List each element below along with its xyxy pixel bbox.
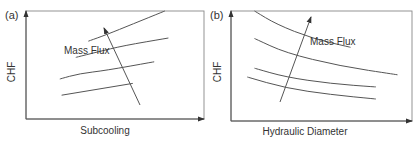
panel-b-curves bbox=[247, 11, 397, 99]
chf-diagram: (a) CHF Subcooling Mass Flux (b) CHF Hyd… bbox=[0, 0, 419, 141]
panel-b-frame bbox=[231, 11, 412, 121]
panel-b-x-label: Hydraulic Diameter bbox=[262, 126, 348, 137]
panel-a-annotation: Mass Flux bbox=[64, 45, 110, 56]
panel-a-y-label: CHF bbox=[6, 62, 17, 83]
panel-a-frame bbox=[26, 11, 204, 119]
panel-a-curve-2 bbox=[60, 62, 154, 79]
panel-a: (a) CHF Subcooling Mass Flux bbox=[5, 9, 204, 136]
panel-a-x-label: Subcooling bbox=[80, 125, 129, 136]
panel-b-label: (b) bbox=[210, 9, 223, 21]
panel-a-mass-flux-arrow bbox=[104, 28, 140, 105]
panel-a-curve-1 bbox=[62, 83, 133, 95]
panel-b-y-label: CHF bbox=[212, 62, 223, 83]
panel-a-curve-4 bbox=[88, 11, 165, 41]
panel-b: (b) CHF Hydraulic Diameter Mass Flux bbox=[210, 9, 412, 137]
panel-b-curve-1 bbox=[247, 77, 375, 99]
panel-a-label: (a) bbox=[5, 9, 18, 21]
panel-b-annotation: Mass Flux bbox=[310, 36, 356, 47]
